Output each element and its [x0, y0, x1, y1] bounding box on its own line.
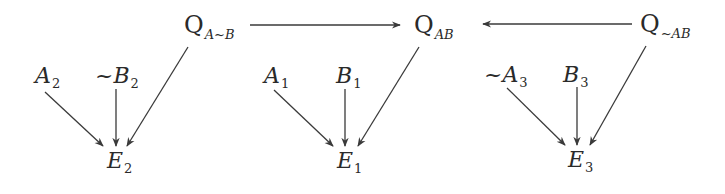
node-nota3: ~A3	[484, 64, 528, 86]
edge-qanotb-to-e2	[127, 47, 188, 146]
node-e2: E2	[107, 150, 132, 172]
node-notb2: ~B2	[95, 65, 139, 87]
edge-qnotab-to-e3	[590, 46, 646, 145]
causal-diagram: QA~B QAB Q~AB A2 ~B2 E2 A1 B1 E1 ~A3 B3 …	[0, 0, 725, 194]
node-a2: A2	[35, 65, 60, 87]
node-b1: B1	[336, 65, 361, 87]
node-q-nota-b: Q~AB	[640, 12, 691, 36]
edge-a1-to-e1	[274, 90, 333, 146]
node-b3: B3	[563, 64, 588, 86]
edge-nota3-to-e3	[507, 88, 565, 145]
node-a1: A1	[264, 65, 289, 87]
node-q-a-notb: QA~B	[184, 13, 235, 37]
edge-a2-to-e2	[45, 92, 103, 146]
node-q-ab: QAB	[414, 13, 454, 37]
node-e1: E1	[337, 150, 362, 172]
node-e3: E3	[568, 149, 593, 171]
edge-qab-to-e1	[358, 47, 419, 146]
